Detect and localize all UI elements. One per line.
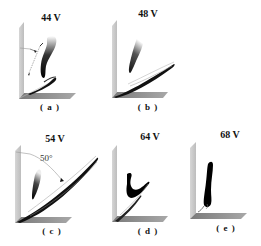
droplet bbox=[32, 170, 41, 200]
floor bbox=[190, 213, 247, 219]
wall bbox=[19, 22, 24, 99]
figure-graphics bbox=[0, 0, 261, 246]
panel-c-label: ( c ) bbox=[42, 226, 62, 236]
droplet bbox=[204, 162, 213, 207]
panel-d bbox=[112, 145, 168, 222]
panel-a-title: 44 V bbox=[41, 12, 61, 23]
angle-annotation: 50° bbox=[40, 153, 53, 163]
droplet bbox=[129, 36, 144, 73]
droplet bbox=[126, 173, 149, 198]
panel-a-label: ( a ) bbox=[40, 102, 60, 112]
panel-b-title: 48 V bbox=[138, 8, 158, 19]
panel-c bbox=[15, 145, 98, 223]
panel-e-title: 68 V bbox=[220, 129, 240, 140]
wall bbox=[112, 20, 117, 98]
wall bbox=[15, 145, 21, 223]
panel-e bbox=[190, 142, 247, 219]
panel-d-title: 64 V bbox=[140, 131, 160, 142]
panel-c-title: 54 V bbox=[45, 133, 65, 144]
panel-e-label: ( e ) bbox=[216, 223, 236, 233]
figure: 44 V 48 V 54 V 64 V 68 V 50° ( a ) ( b )… bbox=[0, 0, 261, 246]
panel-a bbox=[19, 22, 76, 99]
panel-b-label: ( b ) bbox=[138, 102, 159, 112]
panel-d-label: ( d ) bbox=[138, 226, 159, 236]
panel-b bbox=[112, 20, 175, 98]
wall bbox=[190, 142, 196, 219]
wall bbox=[112, 145, 117, 222]
droplet bbox=[41, 36, 57, 78]
